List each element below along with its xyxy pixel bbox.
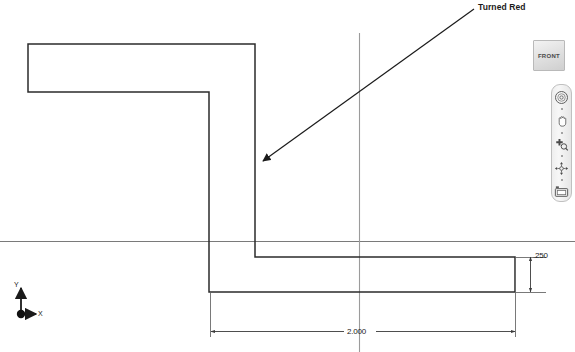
horizontal-dimension[interactable] — [211, 258, 516, 337]
vertical-dimension[interactable] — [516, 257, 546, 293]
reference-axes — [0, 33, 575, 352]
axis-label-y: Y — [14, 281, 19, 288]
profile-outline[interactable] — [28, 44, 515, 292]
navigation-bar[interactable] — [551, 84, 572, 202]
cad-sketch-viewport[interactable]: FRONT — [0, 0, 575, 352]
pan-hand-icon[interactable] — [552, 112, 571, 131]
annotation-leader — [263, 9, 474, 161]
coordinate-axis-indicator — [17, 288, 36, 318]
view-cube[interactable]: FRONT — [533, 40, 565, 71]
dimension-label-horizontal[interactable]: 2.000 — [347, 327, 366, 336]
dimension-label-vertical[interactable]: .250 — [533, 251, 548, 260]
sketch-profile[interactable] — [28, 44, 515, 292]
origin-point — [17, 310, 25, 318]
annotation-turned-red: Turned Red — [478, 2, 526, 12]
view-cube-face-label: FRONT — [538, 53, 560, 59]
steering-wheel-icon[interactable] — [552, 88, 571, 107]
axis-label-x: X — [38, 310, 43, 317]
look-camera-icon[interactable] — [552, 182, 571, 201]
sketch-canvas[interactable] — [0, 0, 575, 352]
leader-line — [263, 9, 474, 161]
zoom-magnifier-icon[interactable] — [552, 135, 571, 154]
orbit-icon[interactable] — [552, 159, 571, 178]
